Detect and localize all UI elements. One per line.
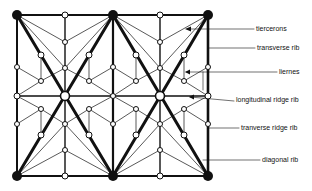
label-transverse-rib: transverse rib xyxy=(257,44,299,52)
label-tranverse-ridge-rib: tranverse ridge rib xyxy=(241,124,297,132)
label-diagonal-rib: diagonal rib xyxy=(262,156,298,164)
label-liernes: liernes xyxy=(279,68,300,76)
label-longitudinal-ridge-rib: longitudinal ridge rib xyxy=(236,96,299,104)
label-tiercerons: tiercerons xyxy=(256,25,287,33)
